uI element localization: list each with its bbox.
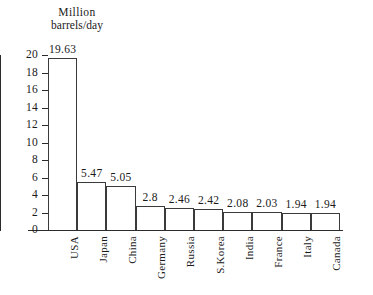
y-axis-tick-label: 8 [13,154,38,166]
bar-canada [311,213,340,230]
x-axis-label-japan: Japan [97,236,109,263]
x-axis-label-india: India [243,236,255,260]
x-axis-label-china: China [126,236,138,264]
y-axis-tick-label: 0 [13,224,38,236]
y-axis-tick-label: 10 [13,137,38,149]
bar-value-label: 5.05 [100,171,141,183]
y-axis-tick-label: 14 [13,102,38,114]
x-axis-line [28,230,343,231]
bar-italy [282,213,311,230]
y-axis-tick-label: 4 [13,189,38,201]
y-axis-tick-label: 12 [13,119,38,131]
x-axis-label-france: France [272,236,284,268]
y-axis-tick-label: 16 [13,84,38,96]
bar-usa [48,58,77,230]
bar-value-label: 1.94 [305,198,346,210]
bar-india [223,212,252,230]
bar-chart: Million barrels/day 20181614121086420 US… [0,0,373,295]
x-axis-label-s-korea: S.Korea [214,236,226,274]
bar-germany [136,206,165,231]
y-axis-title-line1: Million [24,6,130,19]
bar-russia [165,208,194,230]
y-axis-title: Million barrels/day [24,6,130,32]
x-axis-label-italy: Italy [301,236,313,258]
y-axis-tick-label: 2 [13,207,38,219]
x-axis-label-canada: Canada [330,236,342,271]
x-axis-label-russia: Russia [184,236,196,267]
bar-japan [77,182,106,230]
bar-value-label: 19.63 [42,43,83,55]
y-axis-title-line2: barrels/day [24,19,130,32]
x-axis-label-germany: Germany [155,236,167,279]
y-axis-tick-label: 6 [13,172,38,184]
bar-s-korea [194,209,223,230]
x-axis-label-usa: USA [68,236,80,259]
bar-france [252,212,281,230]
y-axis-tick-label: 20 [13,49,38,61]
y-axis-tick-label: 18 [13,67,38,79]
y-axis-tick [42,230,48,231]
y-axis-line [0,55,1,231]
